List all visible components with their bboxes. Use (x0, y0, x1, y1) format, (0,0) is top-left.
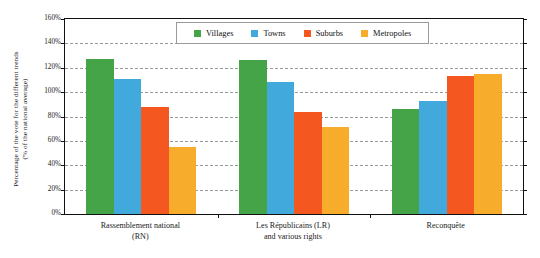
x-axis-category-label: Les Républicains (LR)and various rights (217, 221, 370, 243)
y-axis-tick (61, 214, 65, 215)
x-axis-category-label: Reconquête (369, 221, 522, 232)
bar (267, 82, 295, 214)
chart-legend: VillagesTownsSuburbsMetropoles (176, 22, 429, 44)
y-axis-tick-label: 0% (30, 209, 61, 217)
legend-label: Villages (206, 29, 233, 38)
bar (169, 147, 197, 214)
y-axis-tick (523, 43, 527, 44)
x-axis-category-label: Rassemblement national(RN) (64, 221, 217, 243)
legend-label: Towns (263, 29, 285, 38)
y-axis-tick-label: 60% (30, 136, 61, 144)
x-axis-category-label-line-1: Les Républicains (LR) (217, 221, 370, 232)
bar-chart: Percentage of the vote for the different… (0, 0, 540, 258)
legend-item-towns[interactable]: Towns (251, 29, 285, 38)
y-axis-tick-labels: 0%20%40%60%80%100%120%140%160% (30, 18, 61, 213)
legend-label: Metropoles (373, 29, 411, 38)
bar (86, 59, 114, 214)
y-axis-tick-label: 20% (30, 185, 61, 193)
x-axis-category-label-line-2: and various rights (217, 232, 370, 243)
y-axis-tick (523, 68, 527, 69)
plot-area (64, 18, 524, 215)
legend-swatch-icon (304, 30, 311, 37)
legend-swatch-icon (251, 30, 258, 37)
y-axis-tick (523, 19, 527, 20)
x-axis-tick (218, 214, 219, 218)
y-axis-tick-label: 120% (30, 63, 61, 71)
legend-item-suburbs[interactable]: Suburbs (304, 29, 343, 38)
legend-item-metropoles[interactable]: Metropoles (361, 29, 411, 38)
y-axis-tick-label: 140% (30, 38, 61, 46)
y-axis-tick (523, 165, 527, 166)
y-axis-title-line-1: Percentage of the vote for the different… (12, 14, 21, 224)
y-axis-tick (523, 190, 527, 191)
bar (419, 101, 447, 214)
bar (114, 79, 142, 214)
x-axis-category-label-line-1: Reconquête (369, 221, 522, 232)
x-axis-category-label-line-2: (RN) (64, 232, 217, 243)
y-axis-tick (523, 214, 527, 215)
bar (141, 107, 169, 214)
bars-layer (65, 19, 523, 214)
legend-swatch-icon (194, 30, 201, 37)
y-axis-tick-label: 80% (30, 112, 61, 120)
y-axis-tick-label: 40% (30, 160, 61, 168)
bar (447, 76, 475, 214)
y-axis-tick (523, 92, 527, 93)
bar (294, 112, 322, 214)
bar (239, 60, 267, 214)
bar (474, 74, 502, 214)
x-axis-category-labels: Rassemblement national(RN)Les Républicai… (64, 221, 522, 255)
bar (322, 127, 350, 214)
y-axis-tick-label: 160% (30, 14, 61, 22)
legend-swatch-icon (361, 30, 368, 37)
x-axis-tick (370, 214, 371, 218)
y-axis-tick (523, 117, 527, 118)
y-axis-tick-label: 100% (30, 87, 61, 95)
y-axis-tick (523, 141, 527, 142)
legend-label: Suburbs (316, 29, 343, 38)
legend-item-villages[interactable]: Villages (194, 29, 233, 38)
bar (392, 109, 420, 214)
x-axis-category-label-line-1: Rassemblement national (64, 221, 217, 232)
